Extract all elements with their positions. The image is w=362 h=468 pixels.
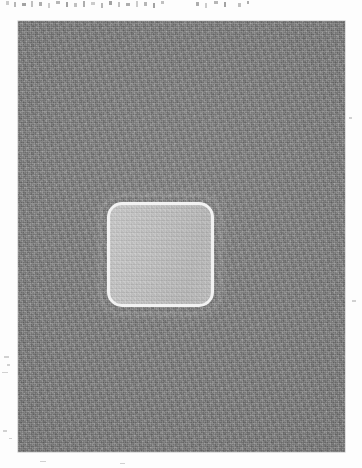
clipped-glyph-tail <box>136 1 138 7</box>
grayscale-figure-panel <box>18 21 345 452</box>
scan-dust-mark <box>120 463 125 464</box>
clipped-glyph-tail <box>39 2 42 6</box>
scan-dust-mark <box>2 372 8 373</box>
clipped-text-band <box>0 0 362 14</box>
scan-dust-mark <box>352 300 356 302</box>
scan-dust-mark <box>7 364 10 366</box>
clipped-glyph-tail <box>153 3 155 8</box>
scan-dust-mark <box>349 117 352 119</box>
clipped-glyph-tail <box>247 1 249 4</box>
clipped-glyph-tail <box>101 3 103 8</box>
clipped-glyph-tail <box>126 3 130 6</box>
scan-dust-mark <box>4 356 9 358</box>
clipped-glyph-tail <box>6 1 9 5</box>
clipped-glyph-tail <box>224 2 226 7</box>
clipped-glyph-tail <box>144 2 147 6</box>
clipped-glyph-tail <box>196 2 199 6</box>
clipped-glyph-tail <box>74 3 77 7</box>
clipped-glyph-tail <box>214 1 218 4</box>
scanned-page <box>0 0 362 468</box>
clipped-glyph-tail <box>83 1 85 7</box>
roi-shading <box>110 205 211 304</box>
clipped-glyph-tail <box>161 1 164 4</box>
clipped-glyph-tail <box>109 1 112 5</box>
scan-dust-mark <box>40 461 46 462</box>
clipped-glyph-tail <box>66 2 68 7</box>
roi-grain-texture <box>107 202 214 307</box>
clipped-glyph-tail <box>238 3 241 7</box>
clipped-glyph-tail <box>48 3 50 8</box>
rounded-square-region-of-interest <box>107 202 214 307</box>
scan-dust-mark <box>3 430 7 432</box>
clipped-glyph-tail <box>14 2 16 7</box>
clipped-glyph-tail <box>31 1 33 7</box>
clipped-glyph-tail <box>22 3 26 6</box>
clipped-glyph-tail <box>91 2 95 5</box>
clipped-glyph-tail <box>56 1 60 4</box>
clipped-glyph-tail <box>118 2 120 7</box>
scan-dust-mark <box>9 438 12 439</box>
clipped-glyph-tail <box>205 3 207 8</box>
